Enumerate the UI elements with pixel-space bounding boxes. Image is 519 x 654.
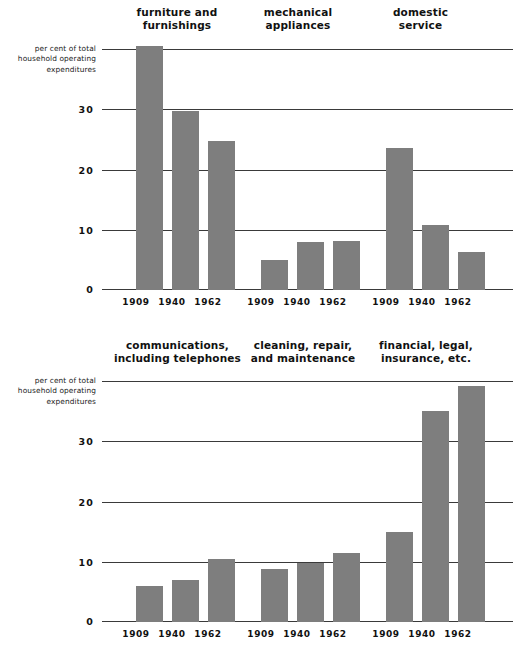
gridline-20-top (102, 170, 513, 171)
xtick-cleaning-1962: 1962 (318, 629, 348, 639)
plot-area-bottom (102, 381, 513, 622)
bar-appliances-1940 (297, 242, 324, 290)
ytick-0-top: 0 (68, 284, 94, 295)
bar-financial-1940 (422, 411, 449, 622)
xtick-furniture-1962: 1962 (193, 297, 223, 307)
ytick-0-bottom: 0 (68, 616, 94, 627)
xtick-communications-1940: 1940 (157, 629, 187, 639)
bar-appliances-1962 (333, 241, 360, 290)
bar-communications-1962 (208, 559, 235, 622)
chart-page: furniture and furnishings mechanical app… (0, 0, 519, 654)
bar-furniture-1909 (136, 46, 163, 290)
xtick-communications-1909: 1909 (121, 629, 151, 639)
xtick-appliances-1909: 1909 (246, 297, 276, 307)
xtick-communications-1962: 1962 (193, 629, 223, 639)
xtick-financial-1940: 1940 (407, 629, 437, 639)
gridline-20-bottom (102, 502, 513, 503)
xtick-domestic-1940: 1940 (407, 297, 437, 307)
y-axis-caption-top: per cent of total household operating ex… (0, 44, 96, 75)
ytick-10-top: 10 (68, 225, 94, 236)
bar-domestic-1909 (386, 148, 413, 290)
gridline-40-top (102, 49, 513, 50)
bar-cleaning-1962 (333, 553, 360, 622)
y-axis-caption-bottom: per cent of total household operating ex… (0, 376, 96, 407)
bar-domestic-1940 (422, 225, 449, 290)
xtick-domestic-1909: 1909 (371, 297, 401, 307)
group-title-mechanical-appliances: mechanical appliances (243, 6, 353, 31)
bar-furniture-1962 (208, 141, 235, 290)
xtick-furniture-1940: 1940 (157, 297, 187, 307)
bar-furniture-1940 (172, 111, 199, 290)
gridline-30-bottom (102, 441, 513, 442)
bar-domestic-1962 (458, 252, 485, 290)
chart-panel-top: furniture and furnishings mechanical app… (0, 0, 519, 325)
bar-appliances-1909 (261, 260, 288, 290)
bar-cleaning-1940 (297, 563, 324, 622)
group-title-cleaning-repair-and-maintenance: cleaning, repair, and maintenance (243, 339, 363, 364)
group-title-domestic-service: domestic service (363, 6, 478, 31)
ytick-30-bottom: 30 (68, 436, 94, 447)
gridline-40-bottom (102, 381, 513, 382)
bar-cleaning-1909 (261, 569, 288, 622)
bar-communications-1940 (172, 580, 199, 622)
group-title-financial-legal-insurance: financial, legal, insurance, etc. (366, 339, 486, 364)
ytick-20-bottom: 20 (68, 497, 94, 508)
group-title-furniture-and-furnishings: furniture and furnishings (118, 6, 236, 31)
xtick-cleaning-1909: 1909 (246, 629, 276, 639)
gridline-10-top (102, 230, 513, 231)
bar-financial-1909 (386, 532, 413, 622)
xtick-appliances-1940: 1940 (282, 297, 312, 307)
xtick-appliances-1962: 1962 (318, 297, 348, 307)
ytick-30-top: 30 (68, 104, 94, 115)
xtick-domestic-1962: 1962 (443, 297, 473, 307)
gridline-30-top (102, 109, 513, 110)
group-title-row-top: furniture and furnishings mechanical app… (0, 0, 519, 34)
chart-panel-bottom: communications, including telephones cle… (0, 325, 519, 654)
bar-financial-1962 (458, 386, 485, 622)
bar-communications-1909 (136, 586, 163, 622)
group-title-row-bottom: communications, including telephones cle… (0, 325, 519, 359)
group-title-communications-including-telephones: communications, including telephones (110, 339, 245, 364)
plot-area-top (102, 49, 513, 290)
ytick-10-bottom: 10 (68, 557, 94, 568)
xtick-furniture-1909: 1909 (121, 297, 151, 307)
xtick-financial-1909: 1909 (371, 629, 401, 639)
xtick-financial-1962: 1962 (443, 629, 473, 639)
xtick-cleaning-1940: 1940 (282, 629, 312, 639)
ytick-20-top: 20 (68, 165, 94, 176)
